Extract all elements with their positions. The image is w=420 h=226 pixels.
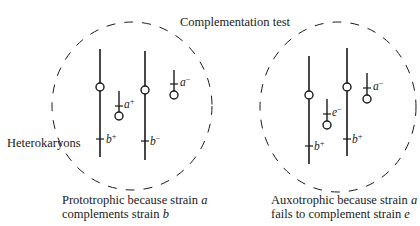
gene-label-right-1: b+ [314,138,325,152]
left-fragment-a-minus: a− [170,70,191,99]
left-caption-line-2: complements strain b [62,207,207,221]
diagram-title: Complementation test [180,15,290,29]
right-chromosome-b-plus-1: b+ [305,56,325,164]
gene-label-left-4: a− [180,74,191,88]
right-chromosome-b-plus-2: b+ [343,48,363,156]
centromere-icon [96,83,104,91]
centromere-icon [323,121,331,129]
right-fragment-a-minus: a− [363,73,384,103]
left-chromosome-b-plus: b+ [96,49,117,157]
left-cell-boundary [52,22,212,190]
centromere-icon [170,91,178,99]
gene-label-left-2: a+ [124,96,135,110]
gene-label-right-4: a− [373,78,384,92]
right-caption-line-1: Auxotrophic because strain a [271,193,417,207]
centromere-icon [305,91,313,99]
gene-label-left-1: b+ [106,131,117,145]
heterokaryons-label: Heterokaryons [7,136,81,150]
left-caption: Prototrophic because strain a complement… [62,193,207,221]
left-fragment-a-plus: a+ [115,91,135,120]
right-caption-line-2: fails to complement strain e [271,207,417,221]
left-caption-line-1: Prototrophic because strain a [62,193,207,207]
centromere-icon [115,112,123,120]
left-heterokaryon: b+ a+ b− a− [52,22,212,190]
left-chromosome-b-minus: b− [141,51,161,160]
centromere-icon [363,95,371,103]
right-fragment-e-minus: e− [323,99,342,129]
gene-label-right-3: b+ [352,131,363,145]
right-heterokaryon: b+ e− b+ a− [260,22,416,192]
centromere-icon [343,83,351,91]
gene-label-right-2: e− [332,104,342,118]
right-caption: Auxotrophic because strain a fails to co… [271,193,417,221]
gene-label-left-3: b− [150,133,161,147]
centromere-icon [141,86,149,94]
